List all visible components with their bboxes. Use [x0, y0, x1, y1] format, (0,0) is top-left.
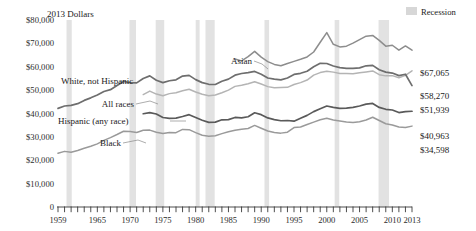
leader-line [136, 101, 158, 104]
y-tick-label: $40,000 [26, 109, 54, 119]
end-label-asian: $67,065 [420, 68, 450, 78]
x-tick-label: 2010 [384, 215, 401, 225]
x-tick-label: 1980 [187, 215, 204, 225]
series-label-black: Black [100, 138, 121, 148]
series-line-white-not-hispanic [143, 71, 412, 96]
recession-band [67, 20, 72, 207]
x-tick-label: 1990 [253, 215, 270, 225]
recession-band [196, 20, 200, 207]
y-axis-tick-labels: $80,000$70,000$60,000$50,000$40,000$30,0… [26, 15, 54, 212]
end-label-hispanic: $40,963 [420, 131, 450, 141]
series-line-hispanic-any-race [143, 103, 412, 122]
recession-bands [67, 20, 390, 207]
y-tick-label: $20,000 [26, 155, 54, 165]
y-tick-label-zero: 0 [50, 202, 54, 212]
x-tick-label: 2000 [318, 215, 335, 225]
recession-band [206, 20, 215, 207]
recession-band [379, 20, 389, 207]
x-tick-label: 1985 [220, 215, 237, 225]
chart-canvas: $80,000$70,000$60,000$50,000$40,000$30,0… [0, 0, 476, 231]
series-label-hispanic: Hispanic (any race) [58, 116, 128, 126]
x-tick-label: 1959 [49, 215, 66, 225]
x-tick-label: 2005 [351, 215, 368, 225]
series-label-white: White, not Hispanic [61, 76, 133, 86]
x-tick-label: 2013 [403, 215, 420, 225]
x-tick-label: 1975 [154, 215, 171, 225]
y-tick-label: $10,000 [26, 179, 54, 189]
x-tick-label: 1970 [122, 215, 139, 225]
y-tick-label: $70,000 [26, 38, 54, 48]
recession-band [129, 20, 136, 207]
recession-legend-label: Recession [421, 7, 457, 17]
recession-band [335, 20, 340, 207]
x-tick-label: 1995 [285, 215, 302, 225]
end-label-black: $34,598 [420, 145, 450, 155]
x-axis [57, 207, 412, 213]
series-label-all-races: All races [102, 99, 135, 109]
series-label-asian: Asian [231, 56, 252, 66]
end-label-all-races: $51,939 [420, 105, 450, 115]
recession-legend-swatch [406, 7, 417, 15]
y-tick-label: $50,000 [26, 85, 54, 95]
income-by-race-line-chart: $80,000$70,000$60,000$50,000$40,000$30,0… [0, 0, 476, 231]
series-lines [58, 33, 412, 154]
recession-band [265, 20, 270, 207]
x-tick-label: 1965 [89, 215, 106, 225]
y-tick-label: $60,000 [26, 62, 54, 72]
x-axis-tick-labels: 1959196519701975198019851990199520002005… [49, 215, 420, 225]
y-axis-units-label: 2013 Dollars [47, 9, 94, 19]
end-label-white: $58,270 [420, 91, 450, 101]
y-tick-label: $30,000 [26, 132, 54, 142]
